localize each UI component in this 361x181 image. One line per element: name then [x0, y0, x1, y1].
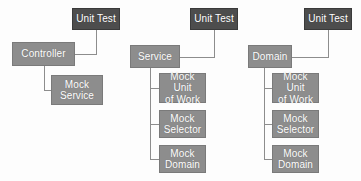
- node-mock-service[interactable]: Mock Service: [51, 75, 103, 105]
- edge-domain-mocks-trunk: [264, 68, 265, 159]
- edge-controller-unittest-horizontal: [75, 54, 97, 55]
- edge-controller-unittest-vertical: [96, 30, 97, 54]
- edge-domain-unittest-horizontal: [292, 57, 329, 58]
- node-service-unit-test[interactable]: Unit Test: [190, 8, 238, 30]
- node-domain-mock-domain[interactable]: Mock Domain: [272, 145, 319, 173]
- edge-service-mock-selector: [150, 124, 159, 125]
- node-service-mock-domain[interactable]: Mock Domain: [159, 145, 206, 173]
- node-domain-mock-selector[interactable]: Mock Selector: [272, 110, 319, 138]
- edge-service-mock-domain: [150, 159, 159, 160]
- edge-service-mocks-trunk: [150, 68, 151, 159]
- edge-service-unittest-horizontal: [180, 57, 215, 58]
- edge-service-unittest-vertical: [214, 30, 215, 57]
- diagram-canvas: Unit Test Controller Mock Service Unit T…: [0, 0, 361, 181]
- node-service-mock-unit-of-work[interactable]: Mock Unit of Work: [159, 73, 206, 103]
- node-controller-unit-test[interactable]: Unit Test: [72, 8, 120, 30]
- node-domain-unit-test[interactable]: Unit Test: [304, 8, 352, 30]
- edge-domain-unittest-vertical: [328, 30, 329, 57]
- node-controller[interactable]: Controller: [12, 42, 75, 66]
- node-service[interactable]: Service: [130, 45, 180, 68]
- node-service-mock-selector[interactable]: Mock Selector: [159, 110, 206, 138]
- edge-controller-mockservice-vertical: [44, 66, 45, 90]
- node-domain-mock-unit-of-work[interactable]: Mock Unit of Work: [272, 73, 319, 103]
- edge-service-mock-unit-of-work: [150, 88, 159, 89]
- node-domain[interactable]: Domain: [248, 45, 292, 68]
- edge-controller-mockservice-horizontal: [44, 90, 51, 91]
